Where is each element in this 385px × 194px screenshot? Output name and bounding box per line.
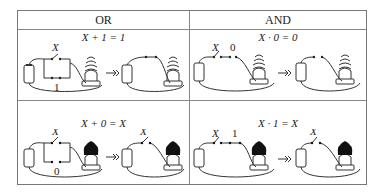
constant-label: 1 <box>54 81 60 93</box>
equation-and-1: X · 0 = 0 <box>190 31 366 43</box>
svg-text:1: 1 <box>232 129 238 139</box>
svg-text:0: 0 <box>54 165 60 177</box>
svg-text:X: X <box>51 129 60 137</box>
svg-text:X: X <box>211 43 220 53</box>
circuit-and-1: X 0 <box>190 43 366 99</box>
svg-text:0: 0 <box>230 43 236 53</box>
header-or: OR <box>18 11 189 29</box>
boolean-identity-table: OR AND X + 1 = 1 X · 0 = 0 X + 0 = X X ·… <box>17 10 367 185</box>
equation-or-2: X + 0 = X <box>18 117 189 129</box>
svg-text:X: X <box>139 129 148 137</box>
equation-or-1: X + 1 = 1 <box>18 31 189 43</box>
header-and: AND <box>190 11 366 29</box>
circuit-or-2: X 0 X <box>18 129 189 185</box>
circuit-and-2: X 1 X <box>190 129 366 185</box>
header-divider <box>18 29 366 30</box>
row-divider <box>18 100 366 101</box>
svg-text:X: X <box>309 129 318 137</box>
equation-and-2: X · 1 = X <box>190 117 366 129</box>
circuit-or-1: X 1 <box>18 43 189 99</box>
svg-text:X: X <box>211 129 220 139</box>
switch-label-x: X <box>51 43 60 53</box>
